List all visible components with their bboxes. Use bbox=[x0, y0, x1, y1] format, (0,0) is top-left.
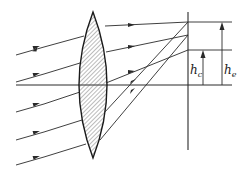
label-he-main: h bbox=[224, 63, 232, 77]
he-arrowhead-icon bbox=[220, 22, 225, 30]
refracted-rays bbox=[100, 22, 188, 140]
label-hc: hc bbox=[190, 64, 202, 79]
ray-diagram-svg bbox=[0, 0, 245, 173]
ray-arrow-icons bbox=[32, 44, 41, 160]
label-he-sub: e bbox=[232, 70, 237, 79]
optics-diagram: hc he bbox=[0, 0, 245, 173]
refracted-ray-arrow-icons bbox=[128, 23, 136, 94]
label-hc-main: h bbox=[190, 63, 198, 77]
label-he: he bbox=[224, 64, 236, 79]
hc-arrowhead-icon bbox=[201, 50, 206, 58]
label-hc-sub: c bbox=[198, 70, 202, 79]
incoming-rays bbox=[16, 36, 86, 165]
